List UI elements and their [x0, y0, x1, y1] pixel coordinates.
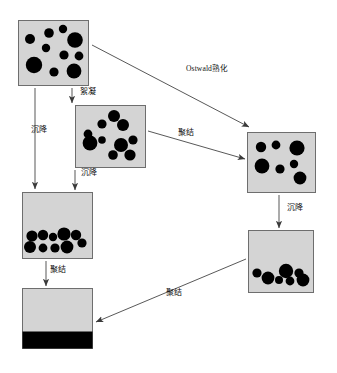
droplet	[39, 244, 48, 253]
ripened-sedimented-emulsion-box	[249, 231, 314, 293]
droplet	[83, 136, 98, 151]
arrow-sedimentation-right-label: 沉降	[287, 203, 303, 213]
droplet	[290, 160, 298, 168]
sedimented-emulsion-box	[23, 193, 93, 259]
droplet	[67, 32, 83, 48]
coalesced-phase-separation-box	[23, 289, 93, 349]
droplet	[289, 140, 304, 155]
droplet	[108, 110, 120, 122]
droplet	[77, 238, 86, 247]
droplet	[114, 138, 128, 152]
droplet	[61, 241, 74, 254]
droplet	[117, 119, 129, 131]
droplet	[57, 227, 70, 240]
droplet	[75, 52, 84, 61]
arrow-sedimentation-left-label: 沉降	[31, 125, 47, 135]
droplet	[59, 50, 68, 59]
droplet	[108, 150, 118, 160]
droplet	[67, 64, 82, 79]
droplet	[49, 233, 57, 241]
arrow-layer	[35, 45, 279, 322]
arrow-coalescence-diagonal-label: 聚结	[166, 288, 182, 298]
droplet	[297, 274, 310, 287]
droplet	[262, 272, 275, 285]
droplet	[252, 268, 261, 277]
droplet	[275, 276, 283, 284]
arrow-flocculation-label: 絮凝	[80, 87, 96, 97]
flocculated-emulsion-box	[76, 106, 146, 168]
droplet	[24, 241, 36, 253]
arrow-ostwald-ripening-label: Ostwald熟化	[186, 64, 228, 74]
droplet	[59, 25, 67, 33]
diagram-canvas	[0, 0, 337, 373]
droplet	[286, 277, 295, 286]
droplet	[128, 135, 137, 144]
initial-emulsion-box	[19, 21, 89, 86]
state-box-layer	[19, 21, 316, 349]
arrow-coalescence-to-ripened	[148, 131, 245, 159]
droplet	[49, 67, 58, 76]
separated-oil-band	[23, 332, 93, 349]
droplet	[275, 164, 284, 173]
droplet	[256, 142, 266, 152]
droplet	[255, 159, 270, 174]
arrow-coalescence-left-label: 聚结	[50, 265, 66, 275]
arrow-coalescence-to-ripened-label: 聚结	[178, 128, 194, 138]
droplet	[26, 230, 37, 241]
droplet	[272, 141, 281, 150]
droplet	[98, 136, 106, 144]
droplet	[97, 119, 106, 128]
emulsion-instability-diagram: Ostwald熟化絮凝沉降聚结沉降沉降聚结聚结	[0, 0, 337, 373]
droplet	[294, 172, 307, 185]
droplet	[25, 34, 35, 44]
droplet	[124, 149, 135, 160]
ostwald-ripened-emulsion-box	[248, 133, 316, 193]
droplet	[42, 44, 50, 52]
droplet	[44, 28, 54, 38]
arrow-sedimentation-middle-label: 沉降	[81, 168, 97, 178]
droplet	[26, 57, 42, 73]
droplet	[50, 243, 59, 252]
droplet	[38, 230, 48, 240]
droplet	[71, 230, 81, 240]
droplet	[279, 264, 293, 278]
